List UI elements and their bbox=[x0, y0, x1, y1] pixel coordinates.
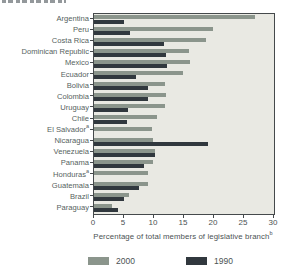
y-tick bbox=[90, 84, 93, 85]
bar-1990-panama bbox=[94, 164, 144, 168]
y-tick bbox=[90, 62, 93, 63]
y-tick bbox=[90, 206, 93, 207]
legend-item-1990: 1990 bbox=[186, 256, 233, 266]
legend-swatch-1990 bbox=[186, 257, 207, 265]
y-tick bbox=[90, 151, 93, 152]
category-label: Brazil bbox=[0, 192, 89, 201]
y-tick bbox=[90, 129, 93, 130]
y-tick bbox=[90, 140, 93, 141]
bar-2000-honduras bbox=[94, 171, 148, 175]
bar-1990-paraguay bbox=[94, 208, 118, 212]
category-label: Chile bbox=[0, 114, 89, 123]
bar-1990-dominican-republic bbox=[94, 53, 166, 57]
category-label: Peru bbox=[0, 25, 89, 34]
category-label: Guatemala bbox=[0, 181, 89, 190]
legend-label: 2000 bbox=[116, 256, 135, 266]
bar-1990-bolivia bbox=[94, 86, 148, 90]
bar-1990-nicaragua bbox=[94, 142, 208, 146]
y-tick bbox=[90, 184, 93, 185]
bar-1990-costa-rica bbox=[94, 42, 164, 46]
category-label: Bolivia bbox=[0, 81, 89, 90]
chart-legend: 20001990 bbox=[0, 256, 284, 268]
y-tick bbox=[90, 73, 93, 74]
category-label: El Salvadora bbox=[0, 125, 89, 134]
category-label: Uruguay bbox=[0, 103, 89, 112]
category-label: Ecuador bbox=[0, 70, 89, 79]
bar-1990-ecuador bbox=[94, 75, 136, 79]
x-tick-label: 25 bbox=[233, 218, 253, 227]
x-tick-label: 10 bbox=[143, 218, 163, 227]
x-tick-label: 5 bbox=[113, 218, 133, 227]
y-tick bbox=[90, 95, 93, 96]
x-tick-label: 15 bbox=[173, 218, 193, 227]
legend-item-2000: 2000 bbox=[88, 256, 135, 266]
bar-1990-brazil bbox=[94, 197, 124, 201]
category-label: Hondurasa bbox=[0, 170, 89, 179]
y-tick bbox=[90, 29, 93, 30]
x-tick-label: 30 bbox=[263, 218, 283, 227]
bar-1990-argentina bbox=[94, 20, 124, 24]
x-tick-label: 20 bbox=[203, 218, 223, 227]
bar-2000-el-salvador bbox=[94, 127, 152, 131]
category-label: Dominican Republic bbox=[0, 47, 89, 56]
y-tick bbox=[90, 195, 93, 196]
bar-1990-uruguay bbox=[94, 108, 128, 112]
category-label: Nicaragua bbox=[0, 136, 89, 145]
y-tick bbox=[90, 118, 93, 119]
category-label: Mexico bbox=[0, 58, 89, 67]
bar-1990-colombia bbox=[94, 97, 148, 101]
x-tick-label: 0 bbox=[83, 218, 103, 227]
y-tick bbox=[90, 162, 93, 163]
bar-1990-guatemala bbox=[94, 186, 139, 190]
category-label: Argentina bbox=[0, 14, 89, 23]
y-tick bbox=[90, 51, 93, 52]
x-axis-title: Percentage of total members of legislati… bbox=[53, 232, 284, 241]
plot-area bbox=[93, 13, 275, 215]
bar-1990-peru bbox=[94, 31, 130, 35]
bar-1990-mexico bbox=[94, 64, 167, 68]
legend-swatch-2000 bbox=[88, 257, 109, 265]
category-label: Paraguay bbox=[0, 203, 89, 212]
category-label: Colombia bbox=[0, 92, 89, 101]
legend-label: 1990 bbox=[214, 256, 233, 266]
category-label: Costa Rica bbox=[0, 36, 89, 45]
bar-1990-chile bbox=[94, 120, 127, 124]
y-tick bbox=[90, 18, 93, 19]
bar-1990-venezuela bbox=[94, 153, 155, 157]
y-tick bbox=[90, 40, 93, 41]
y-tick bbox=[90, 106, 93, 107]
cropped-text-fragment bbox=[2, 0, 66, 3]
y-tick bbox=[90, 173, 93, 174]
category-label: Panama bbox=[0, 158, 89, 167]
category-label: Venezuela bbox=[0, 147, 89, 156]
